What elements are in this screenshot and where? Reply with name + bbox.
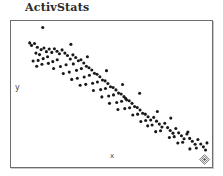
scatter-point (104, 79, 107, 82)
scatter-point (87, 66, 90, 69)
scatter-point (69, 43, 72, 46)
scatter-point (114, 88, 117, 91)
scatter-point (128, 99, 131, 102)
scatter-point (47, 62, 50, 65)
scatter-point (79, 84, 82, 87)
scatter-point (120, 100, 123, 103)
scatter-point (112, 93, 115, 96)
scatter-point (128, 106, 131, 109)
scatter-point (30, 44, 33, 47)
scatter-point (66, 54, 69, 57)
scatter-point (95, 73, 98, 76)
diamond-resize-grip-icon[interactable] (199, 154, 210, 165)
scatter-point (80, 67, 83, 70)
scatter-point (92, 89, 95, 92)
scatter-point (33, 42, 36, 45)
scatter-point (136, 113, 139, 116)
scatter-point (158, 123, 161, 126)
scatter-point (130, 102, 133, 105)
x-axis-label: x (110, 152, 114, 160)
scatter-point (46, 55, 49, 58)
y-axis-label: y (15, 83, 20, 92)
scatter-point (100, 95, 103, 98)
scatter-point (163, 122, 166, 125)
scatter-point (84, 83, 87, 86)
scatter-point (202, 145, 205, 148)
scatter-point (115, 101, 118, 104)
scatter-point (196, 138, 199, 141)
scatter-point (51, 60, 54, 63)
scatter-point (70, 78, 73, 81)
scatter-point (191, 140, 194, 143)
scatter-point (188, 137, 191, 140)
scatter-point (75, 69, 78, 72)
scatter-point (171, 132, 174, 135)
scatter-point (65, 63, 68, 66)
scatter-point (116, 108, 119, 111)
scatter-point (52, 67, 55, 70)
scatter-point (50, 51, 53, 54)
scatter-point (160, 125, 163, 128)
scatter-point (35, 65, 38, 68)
scatter-point (99, 88, 102, 91)
scatter-point (177, 131, 180, 134)
scatter-point (152, 116, 155, 119)
scatter-point (144, 113, 147, 116)
scatter-point (138, 109, 141, 112)
scatter-point (69, 57, 72, 60)
plot-frame[interactable]: y x (10, 20, 213, 168)
plot-area[interactable] (11, 21, 212, 167)
scatter-point (58, 52, 61, 55)
scatter-point (91, 82, 94, 85)
scatter-point (55, 50, 58, 53)
scatter-point (173, 135, 176, 138)
scatter-point (62, 72, 65, 75)
scatter-point (108, 102, 111, 105)
scatter-point (154, 130, 157, 133)
scatter-point (88, 74, 91, 77)
scatter-point (109, 85, 112, 88)
scatter-point (144, 119, 147, 122)
scatter-point (36, 46, 39, 49)
window-title: ActivStats (25, 1, 89, 15)
scatter-point (61, 48, 64, 51)
scatter-point (136, 106, 139, 109)
scatter-point (106, 82, 109, 85)
scatter-point (204, 149, 207, 152)
scatter-points (28, 26, 208, 152)
scatter-point (139, 120, 142, 123)
scatter-point (37, 59, 40, 62)
scatter-point (159, 129, 162, 132)
scatter-point (83, 76, 86, 79)
scatter-point (90, 69, 93, 72)
scatter-point (40, 48, 43, 51)
scatter-point (71, 53, 74, 56)
scatter-point (147, 115, 150, 118)
scatter-point (120, 92, 123, 95)
scatter-point (74, 56, 77, 59)
scatter-point (105, 69, 108, 72)
scatter-point (146, 124, 149, 127)
scatter-point (42, 57, 45, 60)
scatter-point (72, 62, 75, 65)
scatter-point (41, 26, 44, 29)
scatter-point (48, 47, 51, 50)
scatter-point (180, 134, 183, 137)
scatter-point (68, 71, 71, 74)
scatter-point (205, 141, 208, 144)
scatter-point (149, 118, 152, 121)
scatter-point (188, 147, 191, 150)
scatter-point (86, 55, 89, 58)
scatter-point (107, 94, 110, 97)
scatter-point (79, 58, 82, 61)
scatter-point (124, 97, 127, 100)
scatter-point (176, 142, 179, 145)
scatter-point (34, 52, 37, 55)
scatter-point (112, 86, 115, 89)
scatter-point (28, 41, 31, 44)
scatter-point (59, 65, 62, 68)
scatter-point (169, 117, 172, 120)
scatter-plot (11, 21, 212, 167)
scatter-point (183, 137, 186, 140)
scatter-point (131, 113, 134, 116)
